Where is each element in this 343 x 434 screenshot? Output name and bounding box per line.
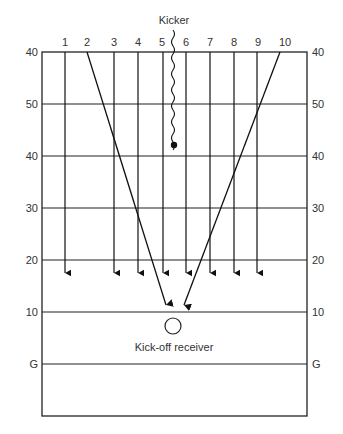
yard-label: 40 — [26, 46, 38, 58]
yard-label: 40 — [312, 150, 324, 162]
player-number: 4 — [135, 36, 141, 48]
player-number: 7 — [207, 36, 213, 48]
kicker-label: Kicker — [159, 14, 190, 26]
yard-label: 20 — [312, 254, 324, 266]
yard-label: 30 — [26, 202, 38, 214]
yard-label: 50 — [26, 98, 38, 110]
yard-label: 40 — [312, 46, 324, 58]
player-number: 10 — [279, 36, 291, 48]
yard-label: G — [29, 358, 38, 370]
yard-label: G — [312, 358, 321, 370]
diagonal-arrow-2 — [87, 52, 166, 305]
receiver-icon — [165, 318, 181, 334]
yard-label: 10 — [26, 306, 38, 318]
player-number: 6 — [183, 36, 189, 48]
yard-label: 40 — [26, 150, 38, 162]
player-number: 3 — [111, 36, 117, 48]
yard-labels-left: 40 50 40 30 20 10 G — [26, 46, 38, 370]
yard-label: 10 — [312, 306, 324, 318]
player-number: 8 — [231, 36, 237, 48]
field-outline — [42, 52, 307, 416]
kickoff-diagram: 40 50 40 30 20 10 G 40 50 40 30 20 10 G … — [0, 0, 343, 434]
yard-label: 30 — [312, 202, 324, 214]
yard-label: 50 — [312, 98, 324, 110]
yard-labels-right: 40 50 40 30 20 10 G — [312, 46, 324, 370]
player-number: 5 — [159, 36, 165, 48]
diagonal-runners — [87, 52, 280, 305]
player-numbers: 1 2 3 4 5 6 7 8 9 10 — [62, 36, 291, 48]
player-number: 2 — [84, 36, 90, 48]
diagonal-arrow-10 — [184, 52, 280, 305]
kicker-path — [172, 30, 175, 150]
coverage-lanes — [65, 52, 257, 273]
player-number: 1 — [62, 36, 68, 48]
receiver-label: Kick-off receiver — [135, 341, 214, 353]
ball-spot-icon — [171, 142, 177, 148]
player-number: 9 — [255, 36, 261, 48]
yard-label: 20 — [26, 254, 38, 266]
